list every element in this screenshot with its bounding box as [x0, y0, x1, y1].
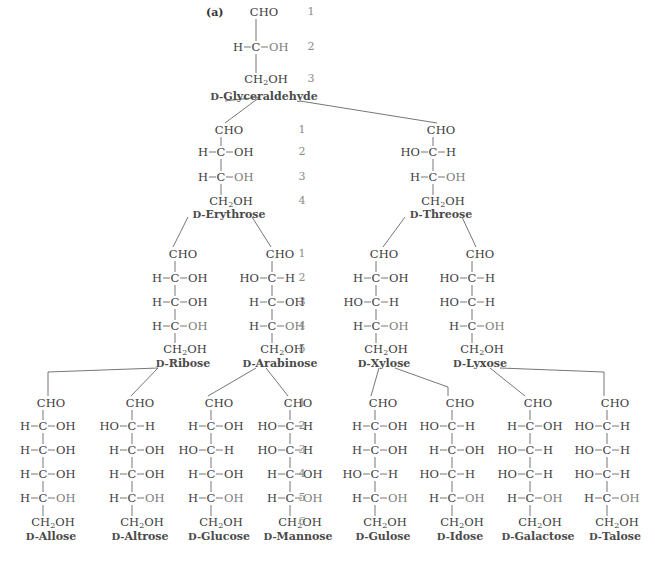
talose-left-group: HO [575, 443, 594, 457]
arabinose-carbon-2: C [268, 271, 277, 285]
lineage-connector [383, 217, 405, 247]
talose-carbon-4: C [603, 467, 612, 481]
allose-carbon-3: C [39, 443, 48, 457]
galactose-carbon-5: C [526, 491, 535, 505]
idose-left-group: HO [420, 419, 439, 433]
carbon-number: 3 [308, 72, 315, 85]
ribose-left-group: H [152, 271, 162, 285]
lyxose-carbon-2: C [468, 271, 477, 285]
sugar-label-glucose: D-Glucose [188, 530, 250, 543]
sugar-label-xylose: D-Xylose [358, 357, 411, 370]
xylose-cho-group: CHO [370, 247, 398, 261]
altrose-carbon-2: C [128, 419, 137, 433]
altrose-right-group: OH [145, 443, 164, 457]
idose-cho-group: CHO [446, 396, 474, 410]
xylose-carbon-4: C [372, 319, 381, 333]
glyceraldehyde-left-group: H [233, 40, 243, 54]
glucose-cho-group: CHO [205, 396, 233, 410]
altrose-right-group: OH [145, 491, 164, 505]
carbon-number: 4 [299, 467, 306, 480]
arabinose-right-group: H [285, 271, 295, 285]
threose-cho-group: CHO [427, 123, 455, 137]
glucose-left-group: H [188, 491, 198, 505]
glyceraldehyde-carbon-2: C [252, 40, 261, 54]
talose-carbon-3: C [603, 443, 612, 457]
idose-right-group: H [465, 419, 475, 433]
talose-left-group: H [584, 491, 594, 505]
mannose-right-group: OH [303, 467, 322, 481]
carbon-number: 2 [299, 145, 306, 158]
carbon-number: 5 [299, 491, 306, 504]
ribose-carbon-4: C [171, 319, 180, 333]
sugar-label-arabinose: D-Arabinose [243, 357, 318, 370]
gulose-carbon-5: C [371, 491, 380, 505]
erythrose-right-group: OH [234, 170, 253, 184]
gulose-cho-group: CHO [369, 396, 397, 410]
talose-right-group: H [620, 419, 630, 433]
galactose-left-group: HO [498, 467, 517, 481]
carbon-number: 4 [299, 319, 306, 332]
sugar-label-mannose: D-Mannose [264, 530, 333, 543]
galactose-carbon-2: C [526, 419, 535, 433]
glucose-left-group: H [188, 467, 198, 481]
idose-right-group: OH [465, 491, 484, 505]
sugar-label-ribose: D-Ribose [156, 357, 211, 370]
ribose-right-group: OH [188, 319, 207, 333]
threose-left-group: HO [401, 145, 420, 159]
mannose-right-group: OH [303, 491, 322, 505]
gulose-carbon-3: C [371, 443, 380, 457]
xylose-left-group: H [353, 319, 363, 333]
arabinose-cho-group: CHO [266, 247, 294, 261]
threose-carbon-3: C [429, 170, 438, 184]
glucose-carbon-2: C [207, 419, 216, 433]
glucose-carbon-3: C [207, 443, 216, 457]
glyceraldehyde-cho-group: CHO [250, 5, 278, 19]
mannose-carbon-5: C [286, 491, 295, 505]
arabinose-ch2oh-group: CH2OH [260, 342, 303, 356]
lyxose-carbon-4: C [468, 319, 477, 333]
sugar-label-erythrose: D-Erythrose [193, 208, 266, 221]
threose-right-group: OH [446, 170, 465, 184]
arabinose-carbon-3: C [268, 295, 277, 309]
lineage-connector [395, 368, 448, 387]
gulose-left-group: H [352, 443, 362, 457]
erythrose-carbon-2: C [217, 145, 226, 159]
carbon-number: 5 [299, 342, 306, 355]
carbon-number: 1 [299, 396, 306, 409]
galactose-left-group: H [507, 491, 517, 505]
talose-carbon-2: C [603, 419, 612, 433]
altrose-left-group: H [109, 467, 119, 481]
lineage-connector [462, 217, 476, 247]
ribose-left-group: H [152, 295, 162, 309]
allose-cho-group: CHO [37, 396, 65, 410]
lineage-connectors [0, 0, 655, 564]
idose-carbon-5: C [448, 491, 457, 505]
allose-right-group: OH [56, 491, 75, 505]
glucose-right-group: OH [224, 467, 243, 481]
ribose-right-group: OH [188, 295, 207, 309]
xylose-ch2oh-group: CH2OH [364, 342, 407, 356]
lyxose-right-group: H [485, 295, 495, 309]
ribose-left-group: H [152, 319, 162, 333]
lineage-connector [371, 368, 379, 396]
glucose-carbon-5: C [207, 491, 216, 505]
mannose-carbon-3: C [286, 443, 295, 457]
allose-ch2oh-group: CH2OH [31, 515, 74, 529]
lineage-connector [208, 368, 256, 396]
lineage-connector [300, 101, 437, 123]
sugar-label-allose: D-Allose [26, 530, 76, 543]
lyxose-cho-group: CHO [466, 247, 494, 261]
talose-right-group: H [620, 443, 630, 457]
lyxose-ch2oh-group: CH2OH [460, 342, 503, 356]
lyxose-carbon-3: C [468, 295, 477, 309]
arabinose-carbon-4: C [268, 319, 277, 333]
mannose-left-group: HO [258, 443, 277, 457]
lyxose-right-group: H [485, 271, 495, 285]
gulose-left-group: HO [343, 467, 362, 481]
idose-right-group: OH [465, 443, 484, 457]
glucose-ch2oh-group: CH2OH [199, 515, 242, 529]
glucose-left-group: HO [179, 443, 198, 457]
carbon-number: 2 [308, 40, 315, 53]
glyceraldehyde-right-group: OH [269, 40, 288, 54]
arabinose-left-group: HO [240, 271, 259, 285]
